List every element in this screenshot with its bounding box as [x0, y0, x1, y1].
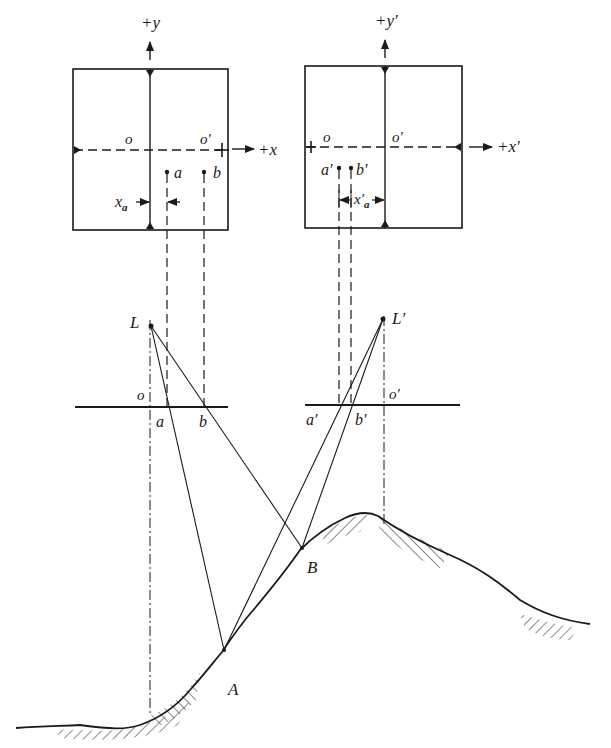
right-station-label: L′ — [391, 309, 405, 328]
right-xa-main: x′ — [353, 191, 365, 207]
right-point-a-dot-icon — [337, 166, 341, 170]
left-fiducial-left-icon — [74, 146, 81, 154]
ground-point-A-label: A — [227, 680, 239, 699]
right-ray-to-A — [224, 319, 383, 650]
right-photo-o-label: o — [323, 129, 331, 145]
left-xa-label: xa — [114, 193, 128, 213]
left-point-b-dot-icon — [202, 170, 206, 174]
left-photo-o-prime-label: o′ — [200, 131, 212, 147]
left-ray-to-A — [151, 326, 224, 650]
ground-point-B-label: B — [307, 558, 318, 577]
right-o-prime-label: o′ — [389, 386, 401, 402]
left-photo-b-label: b — [213, 164, 221, 181]
left-a-label: a — [156, 413, 164, 430]
terrain-profile: A B — [16, 513, 590, 740]
left-xa-main: x — [114, 193, 122, 210]
terrain-hatch-5 — [520, 614, 578, 640]
left-photo-o-label: o — [125, 131, 133, 147]
right-b-prime-label: b′ — [355, 411, 367, 428]
right-exposure-station: L′ o′ a′ b′ — [224, 309, 460, 650]
terrain-hatch-3 — [322, 515, 370, 545]
diagram-canvas: o o′ +y +x a b xa o o′ +y′ +x′ a′ b′ — [0, 0, 611, 748]
right-point-b-dot-icon — [349, 166, 353, 170]
right-a-prime-label: a′ — [306, 411, 318, 428]
right-xa-sub: a — [364, 198, 370, 210]
stereo-pair-diagram: o o′ +y +x a b xa o o′ +y′ +x′ a′ b′ — [0, 0, 611, 748]
right-fiducial-right-icon — [454, 143, 461, 151]
left-photo: o o′ +y +x a b xa — [73, 13, 277, 407]
left-exposure-station: L o a b — [75, 313, 302, 716]
ground-point-B-dot-icon — [300, 546, 304, 550]
left-fiducial-top-icon — [146, 70, 154, 77]
left-ray-to-B — [151, 326, 302, 548]
left-station-label: L — [129, 313, 139, 332]
right-xa-label: x′a — [353, 191, 370, 210]
right-photo-b-label: b′ — [356, 161, 368, 178]
right-photo-o-prime-label: o′ — [392, 129, 404, 145]
left-fiducial-bottom-icon — [146, 222, 154, 229]
terrain-hatch-4 — [375, 515, 450, 568]
right-photo-a-label: a′ — [321, 161, 333, 178]
right-fiducial-bottom-icon — [381, 220, 389, 227]
right-x-axis-label: +x′ — [497, 137, 520, 156]
left-point-a-dot-icon — [165, 170, 169, 174]
ground-point-A-dot-icon — [222, 648, 226, 652]
right-fiducial-top-icon — [381, 67, 389, 74]
right-y-axis-label: +y′ — [375, 11, 398, 30]
left-o-label: o — [137, 387, 145, 403]
left-b-label: b — [199, 413, 207, 430]
left-photo-a-label: a — [174, 164, 182, 181]
left-y-axis-label: +y — [141, 13, 160, 32]
left-x-axis-label: +x — [258, 140, 277, 159]
left-xa-sub: a — [122, 201, 128, 213]
right-photo: o o′ +y′ +x′ a′ b′ x′a — [305, 11, 520, 405]
